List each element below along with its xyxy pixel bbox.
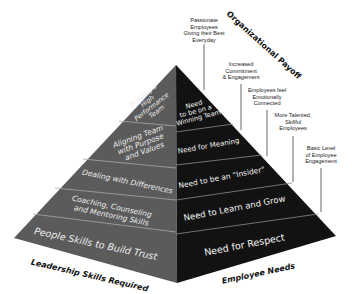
payoff-1: PassionateEmployeesGiving their BestEver… — [183, 17, 224, 90]
svg-text:More Talented,SkillfulEmployee: More Talented,SkillfulEmployees — [275, 112, 312, 131]
svg-text:Employees feelEmotionallyConne: Employees feelEmotionallyConnected — [248, 87, 286, 106]
payoff-3: Employees feelEmotionallyConnected — [248, 87, 286, 156]
pyramid-diagram: Building a High Performance Team Alignin… — [0, 0, 352, 294]
svg-text:PassionateEmployeesGiving thei: PassionateEmployeesGiving their BestEver… — [183, 17, 224, 43]
svg-text:Basic Levelof EmployeeEngageme: Basic Levelof EmployeeEngagement — [305, 145, 337, 164]
payoff-5: Basic Levelof EmployeeEngagement — [305, 145, 337, 212]
svg-text:IncreasedCommitment& Engagemen: IncreasedCommitment& Engagement — [222, 61, 259, 80]
